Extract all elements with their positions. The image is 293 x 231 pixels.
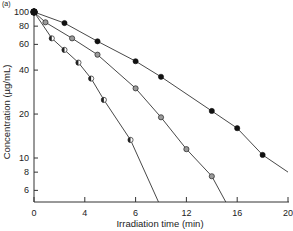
- marker-filled: [62, 20, 67, 25]
- x-tick-label: 4: [82, 208, 87, 218]
- data-point: [31, 9, 37, 15]
- marker-grey: [184, 147, 189, 152]
- data-point: [101, 97, 106, 102]
- marker-grey: [133, 86, 138, 91]
- data-point: [209, 174, 214, 179]
- y-axis-title: Concentration (µg/mL): [1, 65, 12, 160]
- data-point: [76, 60, 81, 65]
- x-tick-label: 12: [181, 208, 191, 218]
- y-tick-label: 8: [24, 167, 29, 177]
- data-point: [62, 20, 67, 25]
- marker-filled: [31, 9, 37, 15]
- data-point: [184, 147, 189, 152]
- data-point: [128, 137, 133, 142]
- marker-filled: [95, 39, 100, 44]
- marker-filled: [260, 152, 265, 157]
- data-point: [158, 115, 163, 120]
- marker-grey: [158, 115, 163, 120]
- data-point: [209, 108, 214, 113]
- marker-filled: [235, 126, 240, 131]
- x-tick-label: 0: [31, 208, 36, 218]
- chart: (a) 100806040201086 046121620 Irradiatio…: [0, 0, 293, 231]
- marker-grey: [43, 20, 48, 25]
- y-tick-label: 40: [19, 65, 29, 75]
- data-point: [158, 74, 163, 79]
- data-point: [133, 59, 138, 64]
- marker-filled: [133, 59, 138, 64]
- data-point: [49, 36, 54, 41]
- marker-grey: [209, 174, 214, 179]
- data-point: [43, 20, 48, 25]
- marker-filled: [158, 74, 163, 79]
- y-tick-label: 6: [24, 185, 29, 195]
- marker-grey: [95, 52, 100, 57]
- y-tick-label: 10: [19, 153, 29, 163]
- marker-filled: [209, 108, 214, 113]
- y-tick-label: 60: [19, 39, 29, 49]
- x-axis-title: Irradiation time (min): [116, 218, 203, 229]
- data-point: [133, 86, 138, 91]
- data-point: [89, 76, 94, 81]
- x-tick-label: 20: [283, 208, 293, 218]
- series-curve-1: [34, 12, 226, 202]
- marker-grey: [70, 36, 75, 41]
- x-tick-label: 6: [133, 208, 138, 218]
- data-point: [260, 152, 265, 157]
- x-tick-label: 16: [232, 208, 242, 218]
- y-tick-label: 80: [19, 21, 29, 31]
- panel-label: (a): [2, 0, 11, 8]
- data-point: [235, 126, 240, 131]
- data-point: [70, 36, 75, 41]
- y-tick-label: 20: [19, 109, 29, 119]
- data-point: [62, 47, 67, 52]
- data-point: [95, 52, 100, 57]
- data-point: [95, 39, 100, 44]
- y-tick-label: 100: [14, 7, 29, 17]
- x-axis-ticks: 046121620: [31, 197, 293, 218]
